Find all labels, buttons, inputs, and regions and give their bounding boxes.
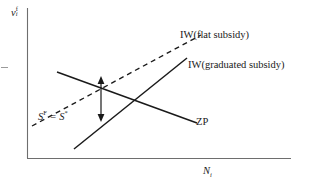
zp-line: [57, 72, 197, 123]
axis-frame: [27, 8, 291, 159]
subsidy-gap-arrow: [98, 76, 105, 122]
s-equality-operator: =: [47, 111, 59, 122]
iw-graduated-subsidy-line: [74, 58, 187, 149]
plot-canvas: [0, 0, 314, 192]
x-axis-label-base: N: [203, 165, 210, 176]
s-equality-right-superscript: *: [64, 109, 67, 116]
gap-arrow-head-bottom: [98, 114, 105, 122]
iw-graduated-subsidy-label: IW(graduated subsidy): [188, 60, 285, 71]
zp-label: ZP: [196, 117, 208, 128]
gap-arrow-head-top: [98, 76, 105, 84]
s-equality-label: SF = S*: [38, 110, 68, 122]
x-axis-label: Ni: [203, 166, 212, 179]
x-axis-label-subscript: i: [210, 171, 212, 178]
y-axis-label-scripts: fi: [16, 6, 18, 16]
y-axis-label: vfi: [11, 6, 18, 19]
iw-flat-subsidy-label: IW(flat subsidy): [180, 30, 249, 41]
economics-diagram-figure: vfi Ni IW(flat subsidy) IW(graduated sub…: [0, 0, 314, 192]
